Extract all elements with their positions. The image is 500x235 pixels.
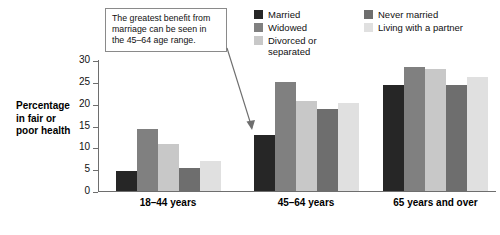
legend-item-widowed: Widowed — [254, 22, 350, 33]
legend-label-divorced-or-separated: Divorced or separated — [268, 35, 350, 57]
legend-label-living-with-a-partner: Living with a partner — [378, 22, 463, 33]
bar[interactable] — [446, 85, 467, 191]
legend-column-left: Married Widowed Divorced or separated — [254, 9, 350, 57]
legend-swatch-living-with-partner-icon — [364, 23, 373, 32]
y-tick-label: 0 — [68, 185, 90, 196]
legend-item-living-with-a-partner: Living with a partner — [364, 22, 496, 33]
y-tick-label: 5 — [68, 163, 90, 174]
chart-legend: Married Widowed Divorced or separated Ne… — [254, 9, 498, 57]
legend-swatch-widowed-icon — [254, 23, 263, 32]
bar[interactable] — [383, 85, 404, 191]
legend-swatch-married-icon — [254, 10, 263, 19]
legend-label-widowed: Widowed — [268, 22, 307, 33]
bar[interactable] — [275, 82, 296, 191]
y-tick-label: 25 — [68, 76, 90, 87]
y-tick-label: 30 — [68, 54, 90, 65]
bar[interactable] — [338, 103, 359, 191]
y-tick-mark — [93, 105, 98, 106]
bar-group-1 — [99, 60, 237, 191]
y-tick-mark — [93, 61, 98, 62]
bar[interactable] — [158, 144, 179, 191]
bar-group-2 — [237, 60, 375, 191]
legend-column-right: Never married Living with a partner — [364, 9, 496, 57]
y-tick-label: 10 — [68, 141, 90, 152]
plot-area: 051015202530 — [98, 60, 496, 192]
y-tick-mark — [93, 127, 98, 128]
y-tick-mark — [93, 192, 98, 193]
x-axis-labels: 18–44 years45–64 years65 years and over — [99, 197, 496, 208]
bar[interactable] — [200, 161, 221, 191]
y-tick-mark — [93, 83, 98, 84]
bar[interactable] — [425, 69, 446, 191]
legend-swatch-never-married-icon — [364, 10, 373, 19]
y-tick-label: 20 — [68, 98, 90, 109]
bar[interactable] — [254, 135, 275, 191]
x-axis-line — [98, 191, 496, 192]
callout-line-2: marriage can be seen in — [112, 24, 221, 35]
y-tick-mark — [93, 148, 98, 149]
x-axis-label-3: 65 years and over — [375, 197, 496, 208]
callout-line-3: the 45–64 age range. — [112, 35, 221, 46]
legend-swatch-divorced-icon — [254, 36, 263, 45]
y-tick-label: 15 — [68, 120, 90, 131]
bar[interactable] — [116, 171, 137, 191]
legend-item-never-married: Never married — [364, 9, 496, 20]
bar-group-3 — [375, 60, 496, 191]
bar[interactable] — [317, 109, 338, 191]
legend-label-married: Married — [268, 9, 300, 20]
y-tick-mark — [93, 170, 98, 171]
x-axis-label-2: 45–64 years — [237, 197, 375, 208]
legend-item-married: Married — [254, 9, 350, 20]
bar[interactable] — [467, 77, 488, 191]
bar[interactable] — [137, 129, 158, 191]
callout-line-1: The greatest benefit from — [112, 13, 221, 24]
x-axis-label-1: 18–44 years — [99, 197, 237, 208]
bar[interactable] — [179, 168, 200, 191]
bar[interactable] — [296, 101, 317, 191]
bar-groups — [99, 60, 496, 191]
legend-label-never-married: Never married — [378, 9, 438, 20]
legend-item-divorced-or-separated: Divorced or separated — [254, 35, 350, 57]
annotation-callout: The greatest benefit from marriage can b… — [105, 8, 227, 52]
bar[interactable] — [404, 67, 425, 191]
